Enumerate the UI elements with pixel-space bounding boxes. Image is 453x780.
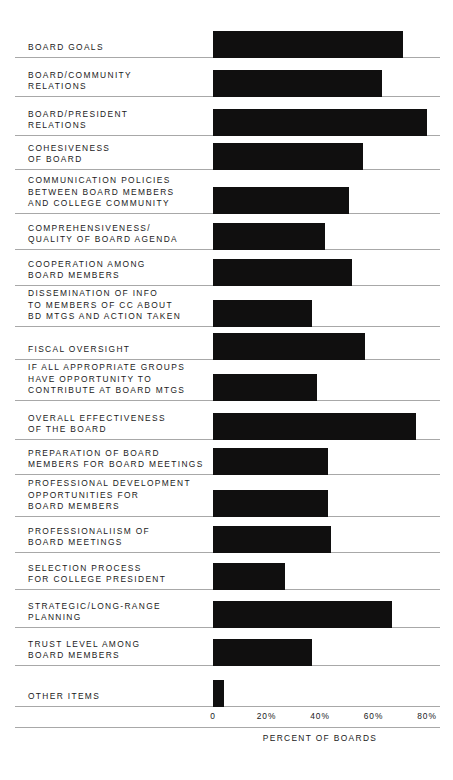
- category-label: BOARD/PRESIDENT RELATIONS: [28, 109, 213, 132]
- bar-chart: BOARD GOALSBOARD/COMMUNITY RELATIONSBOAR…: [0, 0, 453, 780]
- bar: [213, 374, 317, 401]
- bar: [213, 223, 325, 250]
- category-label: COMMUNICATION POLICIES BETWEEN BOARD MEM…: [28, 175, 213, 210]
- category-label: OTHER ITEMS: [28, 691, 213, 703]
- category-label: COOPERATION AMONG BOARD MEMBERS: [28, 259, 213, 282]
- axis-line: [15, 727, 440, 728]
- bar: [213, 490, 328, 517]
- bar: [213, 413, 416, 440]
- bar: [213, 187, 349, 214]
- x-axis-tick-label: 0: [210, 711, 216, 721]
- bar: [213, 300, 312, 327]
- bar: [213, 333, 365, 360]
- category-label: DISSEMINATION OF INFO TO MEMBERS OF CC A…: [28, 288, 213, 323]
- bar: [213, 70, 382, 97]
- category-label: BOARD GOALS: [28, 42, 213, 54]
- bar: [213, 526, 331, 553]
- bar: [213, 143, 363, 170]
- category-label: PROFESSIONAL DEVELOPMENT OPPORTUNITIES F…: [28, 478, 213, 513]
- bar: [213, 601, 392, 628]
- bar: [213, 259, 352, 286]
- x-axis-title: PERCENT OF BOARDS: [263, 733, 377, 743]
- category-label: IF ALL APPROPRIATE GROUPS HAVE OPPORTUNI…: [28, 362, 213, 397]
- bar: [213, 109, 427, 136]
- category-label: PROFESSIONALIISM OF BOARD MEETINGS: [28, 526, 213, 549]
- plot-area: BOARD GOALSBOARD/COMMUNITY RELATIONSBOAR…: [0, 0, 453, 780]
- x-axis-tick-label: 80%: [417, 711, 436, 721]
- x-axis-tick-label: 20%: [257, 711, 276, 721]
- category-label: OVERALL EFFECTIVENESS OF THE BOARD: [28, 413, 213, 436]
- category-label: PREPARATION OF BOARD MEMBERS FOR BOARD M…: [28, 448, 213, 471]
- bar: [213, 563, 285, 590]
- bar: [213, 639, 312, 666]
- category-label: STRATEGIC/LONG-RANGE PLANNING: [28, 601, 213, 624]
- bar: [213, 448, 328, 475]
- category-label: BOARD/COMMUNITY RELATIONS: [28, 70, 213, 93]
- bar: [213, 31, 403, 58]
- chart-row: OTHER ITEMS: [15, 666, 440, 707]
- category-label: FISCAL OVERSIGHT: [28, 344, 213, 356]
- bar: [213, 680, 224, 707]
- category-label: SELECTION PROCESS FOR COLLEGE PRESIDENT: [28, 563, 213, 586]
- x-axis-tick-label: 40%: [310, 711, 329, 721]
- category-label: COHESIVENESS OF BOARD: [28, 143, 213, 166]
- category-label: COMPREHENSIVENESS/ QUALITY OF BOARD AGEN…: [28, 223, 213, 246]
- category-label: TRUST LEVEL AMONG BOARD MEMBERS: [28, 639, 213, 662]
- x-axis-tick-label: 60%: [364, 711, 383, 721]
